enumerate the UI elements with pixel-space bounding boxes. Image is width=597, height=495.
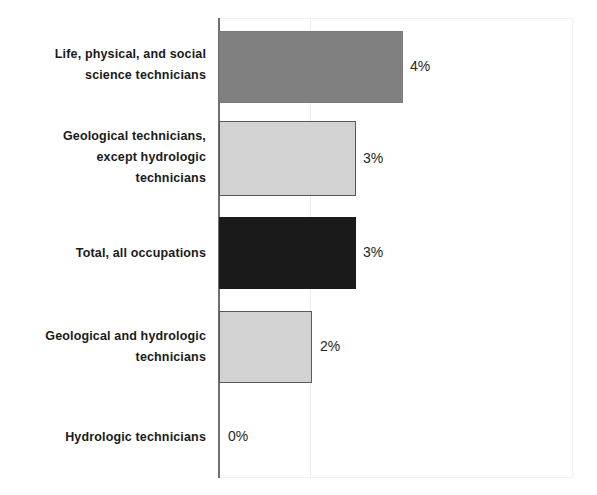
bar-segment[interactable]: [219, 31, 403, 103]
category-label-line: Life, physical, and social: [0, 44, 206, 65]
category-label: Geological technicians, except hydrologi…: [0, 126, 206, 189]
bar-segment[interactable]: [219, 311, 312, 383]
category-label-line: technicians: [0, 168, 206, 189]
category-label-line: Geological and hydrologic: [0, 326, 206, 347]
category-label: Hydrologic technicians: [0, 427, 206, 448]
category-label-line: technicians: [0, 347, 206, 368]
category-label-line: science technicians: [0, 65, 206, 86]
bar-value-label: 0%: [228, 428, 248, 444]
category-label-line: except hydrologic: [0, 147, 206, 168]
category-label-line: Hydrologic technicians: [0, 427, 206, 448]
bar-value-label: 2%: [320, 338, 340, 354]
bar-chart: Life, physical, and social science techn…: [0, 0, 597, 495]
bar-value-label: 3%: [363, 244, 383, 260]
chart-title: [195, 0, 495, 7]
bar-segment[interactable]: [219, 217, 356, 289]
bar-segment[interactable]: [219, 121, 356, 196]
category-label-line: Geological technicians,: [0, 126, 206, 147]
category-label-line: Total, all occupations: [0, 243, 206, 264]
category-label: Geological and hydrologic technicians: [0, 326, 206, 368]
bar-value-label: 3%: [363, 150, 383, 166]
category-label: Total, all occupations: [0, 243, 206, 264]
bar-value-label: 4%: [410, 58, 430, 74]
category-label: Life, physical, and social science techn…: [0, 44, 206, 86]
